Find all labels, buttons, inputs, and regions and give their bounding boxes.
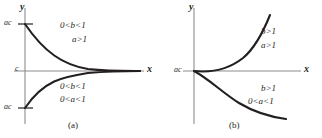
- panel-b-upper-curve: [194, 15, 270, 71]
- panel-b-lower-condition-2: 0<a<1: [248, 97, 274, 106]
- panel-b-tick-label-origin: ac: [174, 66, 182, 74]
- panel-a-y-axis-label: y: [20, 2, 24, 12]
- panel-b-graph: [161, 0, 322, 138]
- panel-a-caption: (a): [68, 121, 78, 130]
- panel-b-lower-curve: [194, 71, 286, 119]
- panel-a: y x ac c ac 0<b<1 a>1 0<b<1 0<a<1 (a): [0, 0, 161, 138]
- panel-a-tick-label-lower: ac: [4, 103, 12, 111]
- panel-a-x-axis-label: x: [147, 64, 152, 74]
- panel-b-y-axis-label: y: [189, 2, 193, 12]
- panel-a-lower-condition-1: 0<b<1: [60, 82, 86, 91]
- panel-a-lower-condition-2: 0<a<1: [60, 95, 86, 104]
- panel-b: y x ac b>1 a>1 b>1 0<a<1 (b): [161, 0, 322, 138]
- exponential-growth-decay-figure: y x ac c ac 0<b<1 a>1 0<b<1 0<a<1 (a): [0, 0, 322, 138]
- panel-a-upper-curve: [25, 24, 140, 71]
- panel-b-x-axis-label: x: [304, 64, 309, 74]
- panel-a-tick-label-middle: c: [15, 65, 19, 73]
- panel-a-upper-condition-1: 0<b<1: [60, 21, 86, 30]
- panel-a-upper-condition-2: a>1: [72, 35, 87, 44]
- panel-b-lower-condition-1: b>1: [261, 84, 276, 93]
- panel-b-upper-condition-2: a>1: [261, 41, 276, 50]
- panel-a-tick-label-upper: ac: [4, 19, 12, 27]
- panel-b-caption: (b): [229, 121, 240, 130]
- panel-b-upper-condition-1: b>1: [261, 27, 276, 36]
